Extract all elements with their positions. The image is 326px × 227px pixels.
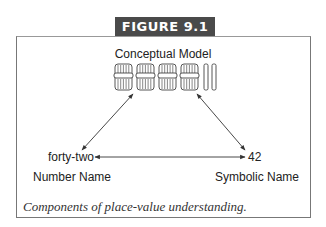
diagram-canvas xyxy=(0,0,326,227)
tens-bundle-icon xyxy=(136,64,155,90)
arrow-model-to-symbolic-name xyxy=(197,94,245,150)
tens-bundle-icon xyxy=(114,64,133,90)
arrow-model-to-number-name xyxy=(82,94,133,150)
tens-bundle-icon xyxy=(158,64,177,90)
base-ten-blocks xyxy=(114,64,216,90)
tens-bundle-icon xyxy=(180,64,199,90)
single-stick-icon xyxy=(212,64,216,90)
symbolic-name-value: 42 xyxy=(248,150,261,164)
single-stick-icon xyxy=(204,64,208,90)
number-name-label: Number Name xyxy=(33,170,111,184)
symbolic-name-label: Symbolic Name xyxy=(215,170,299,184)
figure-caption: Components of place-value understanding. xyxy=(23,199,247,215)
number-name-value: forty-two xyxy=(48,150,94,164)
